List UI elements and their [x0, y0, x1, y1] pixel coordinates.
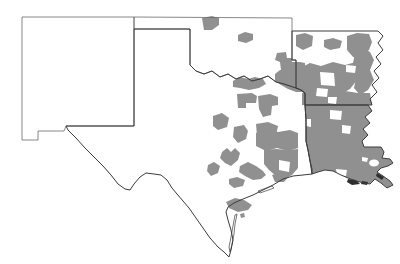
south-central-us-county-map — [0, 0, 400, 264]
unshaded-area — [306, 119, 311, 127]
unshaded-area — [330, 110, 342, 120]
shaded-county-texas — [240, 213, 245, 218]
unshaded-area — [320, 72, 335, 86]
map-figure — [0, 0, 400, 264]
shaded-county-texas — [256, 130, 298, 151]
shaded-county-arkansas — [302, 91, 372, 105]
unshaded-area — [369, 160, 379, 167]
unshaded-area — [346, 65, 356, 73]
state-new-mexico — [22, 17, 134, 140]
unshaded-area — [279, 160, 290, 172]
unshaded-area — [342, 125, 351, 134]
states-layer — [22, 17, 393, 257]
unshaded-area — [316, 88, 328, 97]
unshaded-area — [328, 97, 337, 104]
